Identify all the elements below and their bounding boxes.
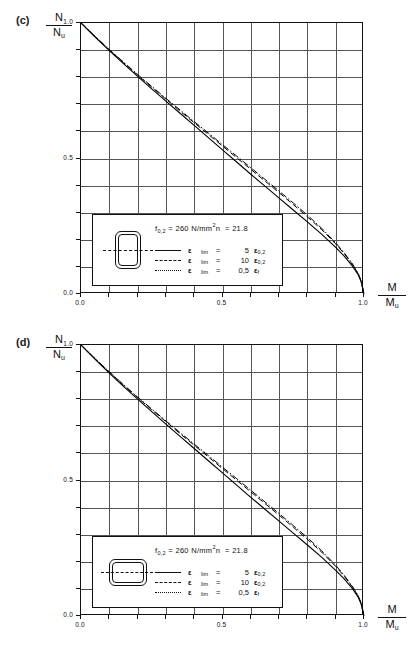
y-axis-tick (76, 480, 80, 481)
x-axis-tick (193, 293, 194, 297)
x-axis-tick-label: 0.0 (65, 299, 95, 306)
y-axis-tick (76, 103, 80, 104)
y-axis-tick (76, 534, 80, 535)
x-axis-tick (80, 293, 81, 297)
x-axis-tick-label: 1.0 (348, 621, 378, 628)
y-axis-tick (76, 185, 80, 186)
legend-row: εlim = 5 ε0,2 (155, 245, 265, 255)
x-axis-numerator: M (378, 282, 406, 296)
x-axis-label-d: M Mu (378, 604, 406, 630)
line-style-solid-icon (155, 246, 181, 254)
x-axis-tick (222, 615, 223, 619)
y-axis-tick (76, 371, 80, 372)
panel-c: (c) N Nu M Mu f0,2 = 260 N/mm2n = 21.8 ε… (0, 0, 419, 322)
y-axis-tick-label: 1.0 (49, 18, 73, 25)
legend-row: εlim = 10 ε0,2 (155, 255, 265, 265)
x-axis-tick (137, 293, 138, 297)
x-axis-tick (306, 615, 307, 619)
y-axis-tick (76, 588, 80, 589)
y-axis-tick (76, 49, 80, 50)
x-axis-tick (250, 615, 251, 619)
x-axis-tick (363, 293, 364, 297)
legend-box-c: f0,2 = 260 N/mm2n = 21.8 εlim = 5 ε0,2 ε… (92, 214, 283, 286)
panel-label-c: (c) (16, 14, 29, 26)
x-axis-tick (165, 615, 166, 619)
cross-section-icon-d (101, 549, 153, 597)
legend-material-line-d: f0,2 = 260 N/mm2n = 21.8 (155, 544, 248, 556)
legend-row: εlim = 0,5 εf (155, 587, 265, 597)
panel-d: (d) N Nu M Mu f0,2 = 260 N/mm2n = 21.8 ε… (0, 322, 419, 644)
line-style-dashed-icon (155, 578, 181, 586)
cross-section-icon-c (101, 227, 153, 275)
y-axis-tick (76, 293, 80, 294)
x-axis-tick (278, 293, 279, 297)
legend-rows-d: εlim = 5 ε0,2 εlim = 10 ε0,2 εlim = 0,5 … (155, 567, 265, 597)
y-axis-tick-label: 0.0 (49, 289, 73, 296)
x-axis-tick (193, 615, 194, 619)
x-axis-tick (80, 615, 81, 619)
x-axis-tick (137, 615, 138, 619)
x-axis-tick (335, 293, 336, 297)
x-axis-tick (250, 293, 251, 297)
y-axis-tick (76, 398, 80, 399)
x-axis-tick (278, 615, 279, 619)
x-axis-label-c: M Mu (378, 282, 406, 308)
y-axis-tick-label: 0.5 (49, 476, 73, 483)
x-axis-tick (335, 615, 336, 619)
legend-rows-c: εlim = 5 ε0,2 εlim = 10 ε0,2 εlim = 0,5 … (155, 245, 265, 275)
line-style-dashdot-icon (155, 588, 181, 596)
y-axis-tick (76, 615, 80, 616)
y-axis-tick (76, 22, 80, 23)
x-axis-tick (306, 293, 307, 297)
y-axis-tick (76, 76, 80, 77)
y-axis-tick (76, 507, 80, 508)
legend-row: εlim = 0,5 εf (155, 265, 265, 275)
line-style-dashed-icon (155, 256, 181, 264)
y-axis-denominator: Nu (46, 26, 72, 39)
y-axis-tick (76, 561, 80, 562)
y-axis-tick (76, 158, 80, 159)
y-axis-tick-label: 1.0 (49, 340, 73, 347)
y-axis-tick-label: 0.5 (49, 154, 73, 161)
legend-row: εlim = 10 ε0,2 (155, 577, 265, 587)
x-axis-tick-label: 0.5 (207, 299, 237, 306)
x-axis-tick (108, 615, 109, 619)
x-axis-numerator: M (378, 604, 406, 618)
x-axis-denominator: Mu (378, 296, 406, 309)
y-axis-tick (76, 344, 80, 345)
y-axis-tick (76, 266, 80, 267)
y-axis-label-d: N Nu (46, 334, 72, 360)
y-axis-tick (76, 425, 80, 426)
x-axis-tick-label: 0.5 (207, 621, 237, 628)
y-axis-tick (76, 452, 80, 453)
x-axis-tick (363, 615, 364, 619)
line-style-solid-icon (155, 568, 181, 576)
x-axis-tick (222, 293, 223, 297)
line-style-dashdot-icon (155, 266, 181, 274)
y-axis-tick (76, 130, 80, 131)
x-axis-tick-label: 0.0 (65, 621, 95, 628)
y-axis-tick-label: 0.0 (49, 611, 73, 618)
legend-row: εlim = 5 ε0,2 (155, 567, 265, 577)
x-axis-denominator: Mu (378, 618, 406, 631)
y-axis-label-c: N Nu (46, 12, 72, 38)
y-axis-tick (76, 212, 80, 213)
panel-label-d: (d) (16, 336, 30, 348)
x-axis-tick (108, 293, 109, 297)
legend-box-d: f0,2 = 260 N/mm2n = 21.8 εlim = 5 ε0,2 ε… (92, 536, 283, 608)
legend-material-line-c: f0,2 = 260 N/mm2n = 21.8 (155, 222, 248, 234)
x-axis-tick-label: 1.0 (348, 299, 378, 306)
x-axis-tick (165, 293, 166, 297)
y-axis-tick (76, 239, 80, 240)
y-axis-denominator: Nu (46, 348, 72, 361)
